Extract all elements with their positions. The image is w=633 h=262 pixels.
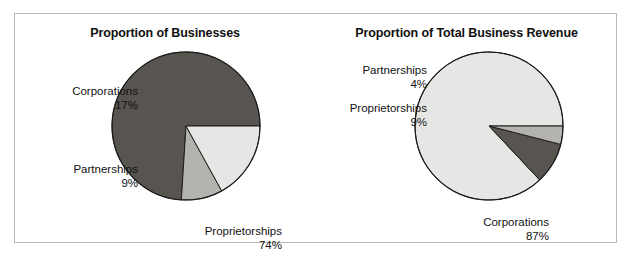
callout-partnerships: Partnerships 9%: [47, 163, 138, 190]
callout-partnerships: Partnerships 4%: [337, 64, 427, 91]
chart-panel-businesses: Proportion of Businesses Corporations 17…: [14, 13, 316, 243]
callout-corporations: Corporations 87%: [437, 216, 549, 243]
callout-corporations: Corporations 17%: [50, 85, 138, 112]
callout-value: 87%: [437, 230, 549, 244]
callout-label: Corporations: [50, 85, 138, 99]
callout-proprietorships: Proprietorships 74%: [162, 225, 282, 252]
callout-label: Proprietorships: [162, 225, 282, 239]
callout-value: 4%: [337, 78, 427, 92]
callout-label: Proprietorships: [314, 102, 427, 116]
callout-label: Corporations: [437, 216, 549, 230]
pie-chart-figure: Proportion of Businesses Corporations 17…: [0, 0, 633, 262]
pie-chart-businesses: [14, 13, 316, 243]
callout-proprietorships: Proprietorships 9%: [314, 102, 427, 129]
callout-label: Partnerships: [337, 64, 427, 78]
callout-value: 9%: [47, 177, 138, 191]
callout-value: 17%: [50, 99, 138, 113]
callout-value: 9%: [314, 116, 427, 130]
callout-label: Partnerships: [47, 163, 138, 177]
callout-value: 74%: [162, 239, 282, 253]
